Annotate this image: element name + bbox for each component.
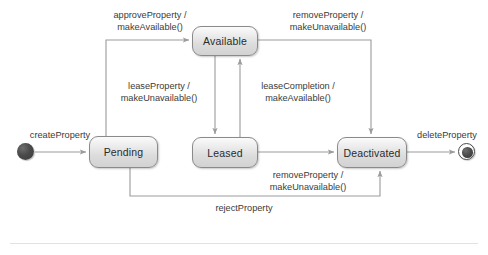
- label-reject-property-text: rejectProperty: [215, 203, 272, 213]
- state-deactivated[interactable]: Deactivated: [337, 137, 407, 168]
- label-remove-property-top-line2: makeUnavailable(): [268, 22, 388, 34]
- label-lease-completion-line2: makeAvailable(): [245, 93, 351, 105]
- state-leased-label: Leased: [207, 147, 242, 159]
- label-remove-property-top: removeProperty / makeUnavailable(): [268, 10, 388, 33]
- label-delete-property: deleteProperty: [409, 130, 485, 142]
- label-approve-property-line1: approveProperty /: [95, 10, 205, 22]
- label-delete-property-text: deleteProperty: [417, 130, 477, 140]
- state-leased[interactable]: Leased: [192, 137, 258, 168]
- state-pending-label: Pending: [104, 146, 144, 158]
- label-approve-property-line2: makeAvailable(): [95, 22, 205, 34]
- label-lease-completion-line1: leaseCompletion /: [245, 81, 351, 93]
- final-state-node: [458, 143, 475, 160]
- label-reject-property: rejectProperty: [204, 203, 284, 215]
- final-state-node-inner: [462, 147, 473, 158]
- state-available-label: Available: [203, 35, 247, 47]
- label-approve-property: approveProperty / makeAvailable(): [95, 10, 205, 33]
- label-remove-property-mid-line2: makeUnavailable(): [253, 182, 363, 194]
- label-remove-property-top-line1: removeProperty /: [268, 10, 388, 22]
- bottom-divider: [10, 243, 478, 244]
- label-create-property: createProperty: [14, 130, 106, 142]
- label-lease-property-line2: makeUnavailable(): [103, 93, 215, 105]
- label-remove-property-mid-line1: removeProperty /: [253, 170, 363, 182]
- label-create-property-text: createProperty: [30, 130, 90, 140]
- state-diagram-canvas: Pending Available Leased Deactivated cre…: [0, 0, 488, 255]
- label-remove-property-mid: removeProperty / makeUnavailable(): [253, 170, 363, 193]
- label-lease-property: leaseProperty / makeUnavailable(): [103, 81, 215, 104]
- label-lease-completion: leaseCompletion / makeAvailable(): [245, 81, 351, 104]
- initial-state-node: [17, 143, 34, 160]
- label-lease-property-line1: leaseProperty /: [103, 81, 215, 93]
- state-deactivated-label: Deactivated: [343, 147, 400, 159]
